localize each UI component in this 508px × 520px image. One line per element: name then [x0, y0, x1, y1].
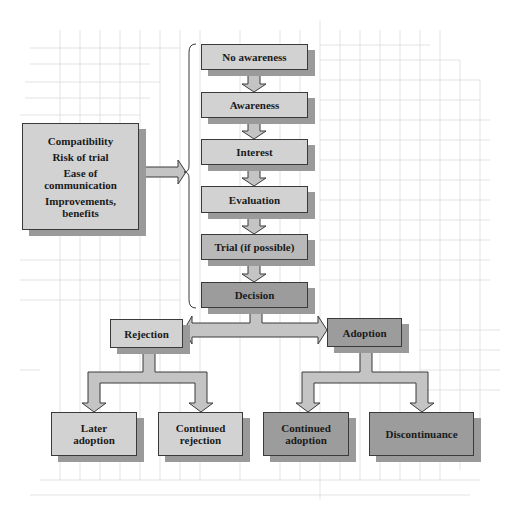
- arrow-down-icon: [242, 118, 266, 139]
- fork-arrow-icon: [296, 347, 434, 412]
- factor-compatibility: Compatibility: [48, 135, 113, 147]
- result-continued-rejection: Continued rejection: [158, 412, 243, 456]
- stage-evaluation: Evaluation: [201, 186, 308, 213]
- factors-box: Compatibility Risk of trial Ease of comm…: [22, 123, 139, 230]
- stage-interest: Interest: [201, 139, 308, 165]
- stage-awareness: Awareness: [201, 92, 308, 118]
- stage-trial: Trial (if possible): [201, 234, 308, 260]
- factor-improvements-benefits: Improvements, benefits: [45, 195, 116, 219]
- factor-risk-of-trial: Risk of trial: [52, 151, 108, 163]
- stage-no-awareness: No awareness: [201, 44, 308, 70]
- fork-arrow-icon: [82, 348, 213, 412]
- outcome-rejection: Rejection: [110, 319, 183, 348]
- factor-ease-of-communication: Ease of communication: [44, 167, 117, 191]
- stage-decision: Decision: [201, 282, 308, 308]
- arrow-down-icon: [242, 260, 266, 282]
- arrow-down-icon: [242, 213, 266, 234]
- arrow-right-icon: [139, 160, 186, 184]
- double-arrow-icon: [184, 308, 327, 344]
- arrow-down-icon: [242, 165, 266, 186]
- result-discontinuance: Discontinuance: [369, 412, 474, 456]
- result-later-adoption: Later adoption: [51, 412, 137, 456]
- result-continued-adoption: Continued adoption: [263, 412, 349, 456]
- outcome-adoption: Adoption: [327, 318, 402, 347]
- bracket-icon: [184, 44, 196, 308]
- arrow-down-icon: [242, 70, 266, 92]
